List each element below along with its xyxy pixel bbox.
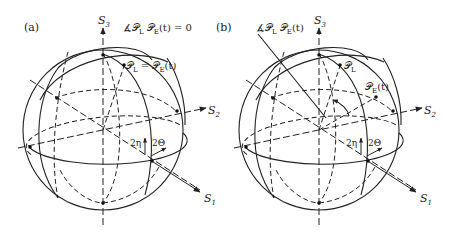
south-pole-dot (317, 201, 321, 205)
s2-axis (18, 108, 206, 148)
s3-label: S3 (98, 14, 111, 29)
lower-dashed-arc (103, 165, 160, 203)
panel-a-label: (a) (24, 21, 39, 34)
s2-label: S2 (424, 104, 437, 119)
bisector-line (258, 34, 326, 118)
panel-b-label: (b) (216, 21, 232, 34)
lower-dashed-arc (319, 165, 376, 203)
s1-axis-dashed (246, 80, 416, 190)
theta-arrow (367, 148, 382, 156)
point-dot (55, 96, 59, 100)
angle-annotation: ∡𝒫L 𝒫E(t) = 0 (123, 22, 192, 36)
pe-vector (319, 97, 376, 130)
theta-label: 2Θ (368, 138, 381, 148)
panel-a: (a) (18, 14, 221, 225)
south-pole-dot (101, 201, 105, 205)
left-dot (28, 145, 32, 149)
point-dot (271, 96, 275, 100)
theta-arrow (151, 148, 166, 156)
pl-equals-pe-label: 𝒫L = 𝒫E(t) (126, 60, 176, 74)
s1-point-dot (366, 159, 370, 163)
s1-axis-dashed (30, 80, 200, 190)
s1-label: S1 (204, 192, 216, 207)
pe-dot (374, 95, 378, 99)
s2-label: S2 (208, 104, 221, 119)
north-pole-dot (101, 53, 105, 57)
pl-vector (319, 66, 340, 130)
pl-vector (103, 66, 124, 130)
angle-annotation: ∡𝒫L 𝒫E(t) (256, 22, 304, 36)
s1-point-dot (150, 159, 154, 163)
s2-axis (234, 108, 422, 148)
poincare-sphere-figure: (a) (0, 0, 452, 240)
eta-label: 2η (130, 138, 141, 148)
left-dot (244, 145, 248, 149)
pl-dot (338, 63, 342, 67)
north-pole-dot (317, 53, 321, 57)
equator-back (240, 110, 399, 155)
theta-label: 2Θ (152, 138, 165, 148)
lower-dashed-arc-2 (276, 170, 319, 203)
s2-point-dot (175, 109, 179, 113)
s2-point-dot (391, 109, 395, 113)
panel-b: (b) S3 (216, 14, 437, 225)
lower-dashed-arc-2 (60, 170, 103, 203)
equator-back (24, 110, 183, 155)
eta-label: 2η (346, 138, 357, 148)
pe-label: 𝒫E(t) (365, 81, 389, 95)
s3-label: S3 (314, 14, 327, 29)
s1-label: S1 (420, 192, 432, 207)
